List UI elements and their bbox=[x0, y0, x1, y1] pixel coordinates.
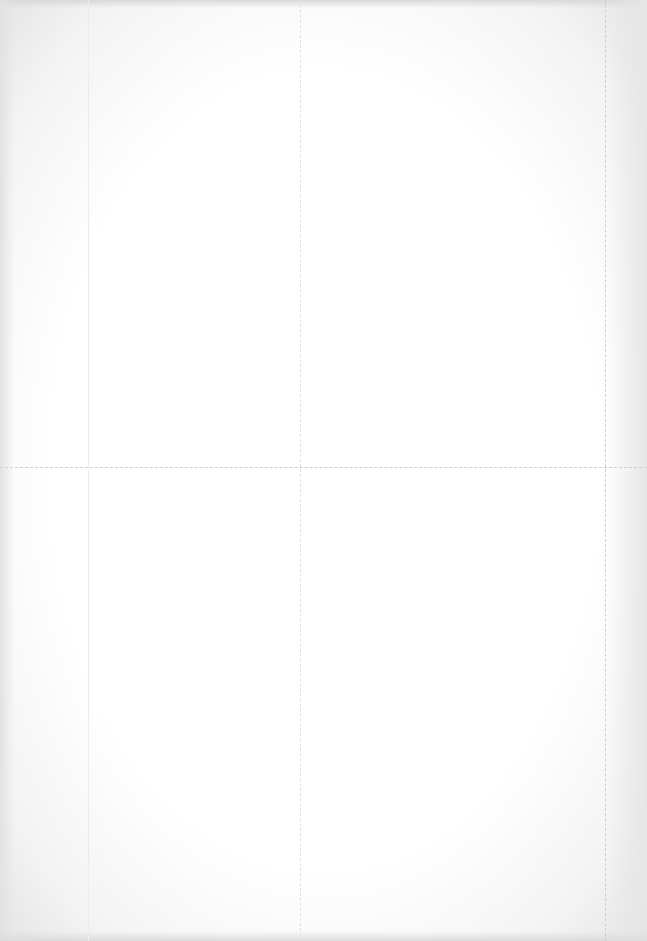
scan-shadow-left bbox=[0, 0, 14, 941]
margin-rule bbox=[88, 0, 89, 941]
section-top-left bbox=[95, 20, 295, 460]
scan-shadow-top bbox=[0, 0, 647, 8]
right-cut-line bbox=[605, 0, 606, 941]
scan-shadow-bottom bbox=[0, 931, 647, 941]
scan-shadow-right bbox=[607, 0, 647, 941]
section-bottom-left bbox=[95, 475, 295, 930]
section-top-right bbox=[308, 20, 598, 460]
horizontal-cut-line bbox=[0, 467, 647, 468]
center-fold-divider bbox=[300, 0, 301, 941]
section-bottom-right bbox=[308, 475, 598, 930]
